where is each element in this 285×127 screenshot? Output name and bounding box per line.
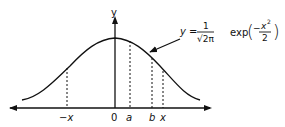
y-axis: [112, 16, 118, 108]
formula-exp-num: x: [260, 21, 267, 31]
formula-lhs: y =: [179, 26, 197, 37]
formula-exp-power: 2: [267, 18, 271, 25]
x-axis: [9, 105, 212, 111]
x-axis-right-arrow-icon: [204, 105, 212, 111]
normal-distribution-diagram: y 0 −x a b x y = 1 √2π exp ( − x 2 2 ): [0, 0, 285, 127]
formula-denominator: √2π: [197, 34, 214, 44]
bell-curve: [22, 38, 200, 100]
label-neg-x: −x: [59, 112, 73, 123]
density-formula: y = 1 √2π exp ( − x 2 2 ): [179, 18, 280, 44]
origin-label: 0: [111, 112, 117, 123]
label-b: b: [149, 112, 155, 123]
formula-exp-sign: −: [253, 23, 261, 33]
formula-exp: exp: [230, 27, 248, 38]
formula-numerator: 1: [203, 21, 209, 31]
formula-close-paren: ): [273, 22, 280, 42]
formula-exp-den: 2: [262, 33, 268, 43]
label-a: a: [126, 112, 132, 123]
formula-pointer-arrow: [150, 39, 180, 52]
x-axis-left-arrow-icon: [9, 105, 17, 111]
y-axis-label: y: [111, 7, 117, 18]
label-x: x: [159, 112, 166, 123]
